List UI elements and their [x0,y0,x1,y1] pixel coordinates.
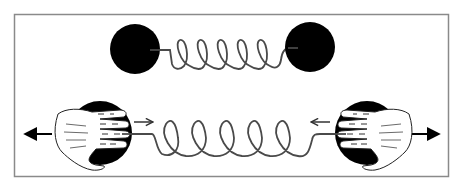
ball-left [110,24,160,74]
ball-right [285,22,335,72]
diagram-canvas [0,0,465,186]
spring-balls-diagram: Two balls connected by a spring: at rest… [0,0,465,186]
